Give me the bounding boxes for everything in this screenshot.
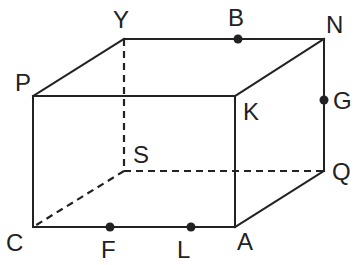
edge-NK	[235, 39, 324, 96]
edge-PY	[33, 39, 124, 96]
label-L: L	[177, 236, 190, 263]
point-B	[234, 35, 243, 44]
point-L	[187, 223, 196, 232]
point-G	[320, 96, 329, 105]
label-S: S	[133, 141, 149, 168]
label-G: G	[333, 87, 352, 114]
point-F	[106, 223, 115, 232]
label-B: B	[228, 4, 244, 31]
edge-QA	[235, 171, 324, 227]
label-A: A	[237, 228, 253, 255]
prism-diagram: Y B N P G K S Q C F L A	[0, 0, 357, 265]
label-P: P	[15, 69, 31, 96]
edge-SC	[33, 171, 124, 227]
label-F: F	[101, 236, 116, 263]
label-Y: Y	[113, 6, 129, 33]
label-N: N	[326, 11, 343, 38]
label-C: C	[6, 229, 23, 256]
label-K: K	[243, 98, 259, 125]
label-Q: Q	[332, 158, 351, 185]
